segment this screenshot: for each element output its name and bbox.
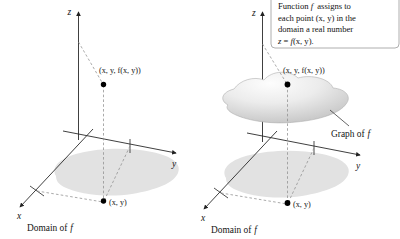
x-axis-label-right: x xyxy=(200,213,206,223)
z-axis-label-right: z xyxy=(251,8,256,18)
domain-point-dot-right xyxy=(285,200,291,206)
callout-line-3: domain a real number xyxy=(278,24,353,34)
callout-line-1: Function f assigns to xyxy=(278,1,351,11)
domain-point-dot-left xyxy=(101,198,106,203)
domain-point-label-left: (x, y) xyxy=(109,198,127,207)
z-projection-left xyxy=(79,42,104,84)
surface-point-label-right: (x, y, f(x, y)) xyxy=(283,66,325,75)
figure-root: z y x (x, y, f(x, y)) (x, y) xyxy=(0,0,400,239)
surface-point-dot-left xyxy=(101,82,106,87)
panel-left: z y x (x, y, f(x, y)) (x, y) xyxy=(16,7,179,233)
function-description-callout: Function f assigns to each point (x, y) … xyxy=(271,0,399,48)
y-axis-label-left: y xyxy=(171,159,177,169)
callout-line-1-b: assigns to xyxy=(315,1,351,11)
graph-of-f-text: Graph of xyxy=(331,129,365,139)
graph-of-f-label: Graph off xyxy=(331,129,372,139)
domain-caption-left-f: f xyxy=(70,223,74,233)
domain-region-left xyxy=(54,149,178,196)
graph-of-f-italic: f xyxy=(368,129,372,139)
callout-line-2: each point (x, y) in the xyxy=(278,13,356,23)
y-axis-label-right: y xyxy=(355,161,361,171)
domain-region-right xyxy=(224,151,348,198)
z-axis-label-left: z xyxy=(67,7,72,17)
surface-point-label-left: (x, y, f(x, y)) xyxy=(99,66,141,75)
callout-line-1-a: Function xyxy=(278,1,311,11)
domain-point-label-right: (x, y) xyxy=(293,200,311,209)
domain-caption-right-text: Domain of xyxy=(211,225,252,235)
x-axis-label-left: x xyxy=(16,211,22,221)
surface-point-dot-right xyxy=(285,82,291,88)
callout-line-4: z = f(x, y). xyxy=(277,36,314,46)
domain-caption-left-text: Domain of xyxy=(27,223,68,233)
graph-surface xyxy=(223,72,349,123)
diagram-canvas: z y x (x, y, f(x, y)) (x, y) xyxy=(0,0,400,239)
domain-caption-right-f: f xyxy=(254,225,258,235)
domain-caption-right: Domain off xyxy=(211,225,258,235)
callout-line-4-rest: (x, y). xyxy=(293,36,314,46)
domain-caption-left: Domain off xyxy=(27,223,74,233)
callout-line-4-eq: = xyxy=(281,36,290,46)
graph-label-leader xyxy=(330,110,349,126)
